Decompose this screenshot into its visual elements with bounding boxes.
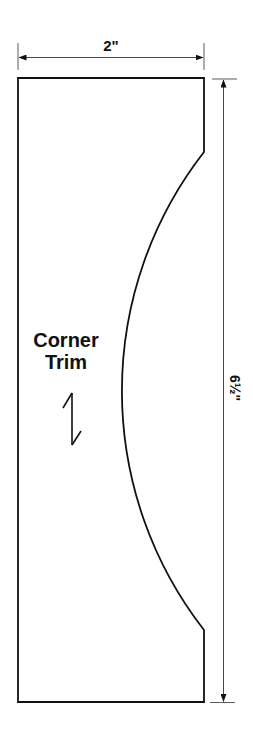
grain-direction-arrow-icon <box>63 393 81 445</box>
height-label: 6½" <box>227 375 243 401</box>
part-label: Corner Trim <box>33 329 99 373</box>
part-label-line2: Trim <box>45 351 87 373</box>
height-dimension: 6½" <box>210 79 243 703</box>
corner-trim-pattern-diagram: 2" 6½" Corner Trim <box>0 0 253 735</box>
width-dimension: 2" <box>18 37 204 70</box>
width-label: 2" <box>103 37 118 54</box>
part-label-line1: Corner <box>33 329 99 351</box>
pattern-outline <box>18 78 204 702</box>
